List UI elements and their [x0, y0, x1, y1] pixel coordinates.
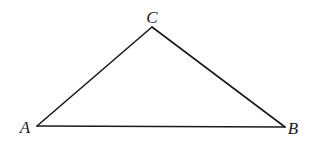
vertex-labels: A B C	[19, 8, 299, 138]
edge-ab	[37, 126, 285, 127]
triangle-edges	[37, 27, 285, 127]
edge-ca	[37, 27, 152, 126]
triangle-diagram: A B C	[0, 0, 310, 143]
vertex-label-c: C	[146, 8, 158, 27]
edge-bc	[152, 27, 285, 127]
vertex-label-b: B	[288, 119, 299, 138]
vertex-label-a: A	[19, 118, 31, 137]
